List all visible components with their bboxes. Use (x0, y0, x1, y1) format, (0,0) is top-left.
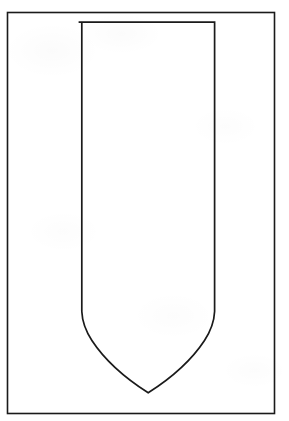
shield-template-artwork (0, 0, 289, 421)
outer-border-rect (8, 13, 275, 414)
page-root: Shield Outline Template (0, 0, 289, 421)
shield-outline-path (79, 22, 215, 393)
